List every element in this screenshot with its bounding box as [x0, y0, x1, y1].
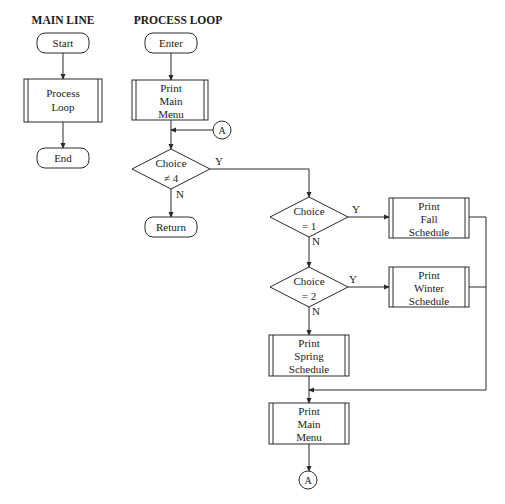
print-winter-line-3: Schedule — [409, 295, 449, 307]
decision-2-line-1: Choice — [293, 205, 324, 217]
terminal-start: Start — [37, 33, 89, 53]
print-spring-line-1: Print — [298, 337, 319, 349]
terminal-enter-label: Enter — [159, 37, 183, 49]
decision-1-yes-label: Y — [215, 155, 223, 167]
terminal-return-label: Return — [156, 221, 186, 233]
decision-choice-eq-1: Choice = 1 — [270, 197, 348, 237]
decision-1-line-2: ≠ 4 — [164, 172, 179, 184]
predefined-process-loop: Process Loop — [24, 79, 102, 122]
print-main-menu-1-line-2: Main — [159, 95, 183, 107]
print-main-menu-2-line-3: Menu — [296, 431, 322, 443]
decision-3-line-1: Choice — [293, 275, 324, 287]
decision-choice-not-4: Choice ≠ 4 — [132, 149, 210, 189]
print-spring-line-2: Spring — [294, 350, 324, 362]
connector-a-in-label: A — [218, 125, 226, 136]
decision-2-no-label: N — [312, 235, 320, 247]
connector-a-out: A — [299, 471, 317, 489]
terminal-end: End — [37, 148, 89, 168]
decision-3-no-label: N — [312, 305, 320, 317]
print-main-menu-1-line-1: Print — [160, 82, 181, 94]
print-spring-line-3: Schedule — [289, 363, 329, 375]
print-fall-line-2: Fall — [420, 213, 437, 225]
predefined-print-main-menu-2: Print Main Menu — [269, 403, 349, 444]
process-loop-line-1: Process — [46, 87, 80, 99]
decision-1-no-label: N — [176, 188, 184, 200]
decision-3-yes-label: Y — [349, 273, 357, 285]
flowchart: MAIN LINE PROCESS LOOP Start Process Loo… — [0, 0, 505, 504]
terminal-end-label: End — [54, 152, 72, 164]
decision-2-line-2: = 1 — [302, 220, 316, 232]
predefined-print-spring-schedule: Print Spring Schedule — [269, 335, 349, 376]
print-fall-line-3: Schedule — [409, 226, 449, 238]
connector-a-out-label: A — [304, 475, 312, 486]
decision-1-line-1: Choice — [155, 157, 186, 169]
print-winter-line-1: Print — [418, 269, 439, 281]
predefined-print-fall-schedule: Print Fall Schedule — [389, 198, 469, 238]
predefined-print-winter-schedule: Print Winter Schedule — [389, 267, 469, 307]
decision-2-yes-label: Y — [352, 203, 360, 215]
terminal-start-label: Start — [53, 37, 74, 49]
print-fall-line-1: Print — [418, 200, 439, 212]
print-winter-line-2: Winter — [414, 282, 444, 294]
process-loop-line-2: Loop — [51, 101, 75, 113]
print-main-menu-1-line-3: Menu — [158, 108, 184, 120]
decision-3-line-2: = 2 — [302, 290, 316, 302]
decision-choice-eq-2: Choice = 2 — [270, 267, 348, 307]
print-main-menu-2-line-1: Print — [298, 405, 319, 417]
heading-process-loop: PROCESS LOOP — [134, 14, 223, 26]
connector-a-in: A — [213, 121, 231, 139]
terminal-enter: Enter — [145, 33, 197, 53]
predefined-print-main-menu-1: Print Main Menu — [132, 80, 208, 120]
print-main-menu-2-line-2: Main — [297, 418, 321, 430]
heading-main-line: MAIN LINE — [32, 14, 95, 26]
terminal-return: Return — [145, 217, 197, 237]
